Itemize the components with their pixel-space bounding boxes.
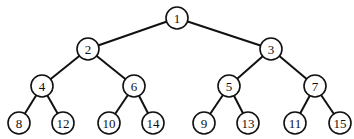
binary-tree-diagram: 123465781210149131115: [0, 0, 354, 139]
node-label: 4: [39, 79, 46, 94]
tree-edges: [19, 18, 340, 123]
tree-node-6: 6: [123, 75, 145, 97]
tree-node-8: 8: [8, 112, 30, 134]
node-label: 9: [201, 116, 208, 131]
node-label: 3: [268, 42, 275, 57]
edge-1-3: [177, 18, 271, 49]
tree-node-4: 4: [31, 75, 53, 97]
tree-node-3: 3: [260, 38, 282, 60]
tree-node-10: 10: [98, 112, 120, 134]
node-label: 14: [147, 116, 161, 131]
tree-node-14: 14: [142, 112, 164, 134]
node-label: 2: [85, 42, 92, 57]
node-label: 12: [57, 116, 70, 131]
tree-node-2: 2: [77, 38, 99, 60]
tree-canvas: 123465781210149131115: [0, 0, 354, 139]
node-label: 15: [334, 116, 347, 131]
tree-node-7: 7: [304, 75, 326, 97]
tree-nodes: 123465781210149131115: [8, 7, 351, 134]
node-label: 7: [312, 79, 319, 94]
node-label: 1: [174, 11, 181, 26]
tree-node-11: 11: [284, 112, 306, 134]
node-label: 5: [226, 79, 233, 94]
node-label: 10: [103, 116, 116, 131]
tree-node-13: 13: [237, 112, 259, 134]
tree-node-1: 1: [166, 7, 188, 29]
edge-1-2: [88, 18, 177, 49]
tree-node-12: 12: [52, 112, 74, 134]
tree-node-5: 5: [218, 75, 240, 97]
node-label: 11: [289, 116, 302, 131]
node-label: 13: [242, 116, 255, 131]
tree-node-15: 15: [329, 112, 351, 134]
node-label: 8: [16, 116, 23, 131]
node-label: 6: [131, 79, 138, 94]
tree-node-9: 9: [193, 112, 215, 134]
